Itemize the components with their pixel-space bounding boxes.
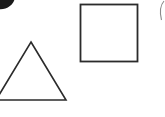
shapes-svg	[0, 0, 165, 117]
shapes-canvas: White background with a line-drawn trian…	[0, 0, 165, 117]
